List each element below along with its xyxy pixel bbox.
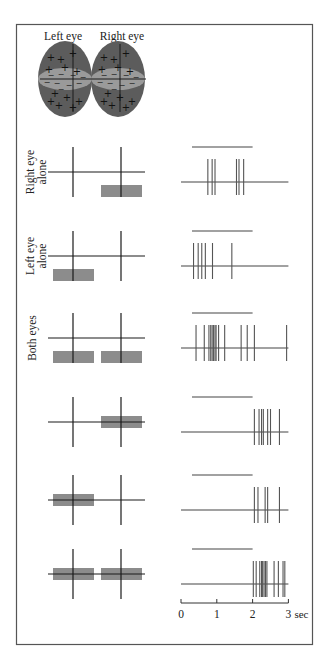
figure-frame bbox=[17, 25, 313, 645]
time-axis: 0123sec bbox=[178, 599, 308, 620]
plus-symbol: + bbox=[47, 96, 55, 107]
plus-symbol: + bbox=[47, 52, 55, 63]
plus-symbol: + bbox=[69, 48, 77, 59]
plus-symbol: + bbox=[122, 102, 130, 113]
plus-symbol: + bbox=[100, 52, 108, 63]
plus-symbol: + bbox=[122, 48, 130, 59]
row-1: Right eyealone bbox=[24, 147, 288, 197]
axis-tick-label: 3 bbox=[286, 608, 292, 620]
right-eye-label: Right eye bbox=[100, 30, 144, 43]
row-5 bbox=[48, 475, 288, 525]
plus-symbol: + bbox=[108, 100, 116, 111]
row-label-line: alone bbox=[36, 244, 48, 269]
row-label-line: alone bbox=[36, 160, 48, 185]
plus-symbol: + bbox=[55, 100, 63, 111]
minus-symbol: − bbox=[129, 79, 136, 88]
row-label: Left eyealone bbox=[24, 237, 48, 275]
minus-symbol: − bbox=[58, 70, 65, 79]
plus-symbol: + bbox=[100, 96, 108, 107]
row-label-line: Both eyes bbox=[26, 315, 39, 361]
minus-symbol: − bbox=[66, 81, 73, 90]
minus-symbol: − bbox=[111, 85, 118, 94]
plus-symbol: + bbox=[69, 102, 77, 113]
receptive-field-diagram: ++++++++++++−−−−−−−−−++++++++++++−−−−−−−… bbox=[38, 41, 146, 117]
axis-tick-label: 2 bbox=[250, 608, 256, 620]
minus-symbol: − bbox=[119, 81, 126, 90]
minus-symbol: − bbox=[58, 85, 65, 94]
row-label: Right eyealone bbox=[24, 150, 48, 194]
axis-unit-label: sec bbox=[294, 608, 308, 620]
row-3: Both eyes bbox=[26, 313, 288, 363]
binocular-receptive-field-figure: Left eye Right eye ++++++++++++−−−−−−−−−… bbox=[0, 0, 326, 660]
minus-symbol: − bbox=[111, 70, 118, 79]
left-eye-label: Left eye bbox=[44, 30, 82, 43]
row-2: Left eyealone bbox=[24, 231, 288, 281]
row-label: Both eyes bbox=[26, 315, 39, 361]
axis-tick-label: 0 bbox=[178, 608, 184, 620]
row-6 bbox=[48, 549, 288, 599]
axis-tick-label: 1 bbox=[214, 608, 220, 620]
stimulus-response-rows: Right eyealoneLeft eyealoneBoth eyes bbox=[24, 147, 288, 599]
minus-symbol: − bbox=[76, 79, 83, 88]
row-4 bbox=[48, 397, 288, 447]
